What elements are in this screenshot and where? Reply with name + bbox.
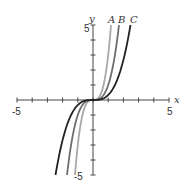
curve-c-label: C	[130, 14, 138, 25]
x-min-label: -5	[12, 106, 21, 117]
y-max-label: 5	[84, 23, 90, 34]
x-axis-label: x	[174, 94, 180, 105]
curve-b-label: B	[117, 14, 125, 25]
chart: x y -5 5 5 -5 A B C	[0, 0, 184, 188]
curve-a-label: A	[107, 14, 115, 25]
y-min-label: -5	[74, 171, 83, 182]
x-max-label: 5	[167, 106, 173, 117]
